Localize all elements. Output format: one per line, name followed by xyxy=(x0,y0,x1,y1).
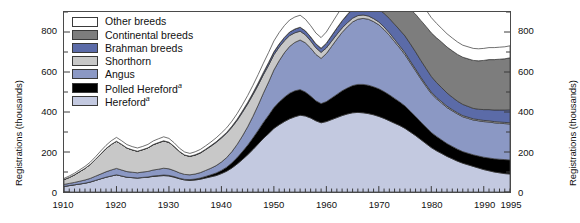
y-axis-title-left: Registrations (thousands) xyxy=(13,80,24,186)
y-tick-left-400: 400 xyxy=(27,106,57,117)
y-tick-left-800: 800 xyxy=(27,25,57,36)
legend-swatch-polled_hereford xyxy=(72,83,98,93)
legend-label-shorthorn: Shorthorn xyxy=(105,56,151,67)
legend-item-shorthorn: Shorthorn xyxy=(72,55,193,68)
legend-item-other_breeds: Other breeds xyxy=(72,15,193,28)
legend-label-continental_breeds: Continental breeds xyxy=(105,30,193,41)
legend-item-polled_hereford: Polled Hereforda xyxy=(72,81,193,94)
legend-swatch-brahman_breeds xyxy=(72,43,98,53)
legend-swatch-shorthorn xyxy=(72,56,98,66)
y-axis-title-right: Registrations (thousands) xyxy=(567,80,578,186)
y-tick-right-600: 600 xyxy=(518,66,548,77)
y-tick-left-200: 200 xyxy=(27,147,57,158)
legend-item-hereford: Hereforda xyxy=(72,94,193,107)
y-tick-left-0: 0 xyxy=(27,187,57,198)
y-tick-left-600: 600 xyxy=(27,66,57,77)
legend-footnote-marker: a xyxy=(178,82,182,89)
x-tick-1980: 1980 xyxy=(409,199,455,210)
legend-label-brahman_breeds: Brahman breeds xyxy=(105,43,183,54)
y-tick-right-200: 200 xyxy=(518,147,548,158)
legend-swatch-continental_breeds xyxy=(72,30,98,40)
legend-swatch-angus xyxy=(72,69,98,79)
chart-legend: Other breedsContinental breedsBrahman br… xyxy=(72,15,193,107)
y-tick-right-800: 800 xyxy=(518,25,548,36)
legend-swatch-other_breeds xyxy=(72,17,98,27)
x-tick-1940: 1940 xyxy=(198,199,244,210)
legend-label-polled_hereford: Polled Hereforda xyxy=(105,82,182,94)
x-tick-1920: 1920 xyxy=(93,199,139,210)
x-tick-1910: 1910 xyxy=(40,199,86,210)
legend-item-continental_breeds: Continental breeds xyxy=(72,28,193,41)
legend-swatch-hereford xyxy=(72,96,98,106)
x-tick-1930: 1930 xyxy=(145,199,191,210)
y-tick-right-0: 0 xyxy=(518,187,548,198)
legend-item-brahman_breeds: Brahman breeds xyxy=(72,41,193,54)
y-tick-right-400: 400 xyxy=(518,106,548,117)
x-tick-1970: 1970 xyxy=(356,199,402,210)
legend-footnote-marker: a xyxy=(146,95,150,102)
x-tick-1960: 1960 xyxy=(304,199,350,210)
legend-label-angus: Angus xyxy=(105,69,135,80)
x-tick-1995: 1995 xyxy=(488,199,534,210)
chart-figure: Registrations (thousands) Registrations … xyxy=(0,0,580,223)
legend-label-hereford: Hereforda xyxy=(105,95,150,107)
legend-label-other_breeds: Other breeds xyxy=(105,16,166,27)
legend-item-angus: Angus xyxy=(72,68,193,81)
x-tick-1950: 1950 xyxy=(251,199,297,210)
